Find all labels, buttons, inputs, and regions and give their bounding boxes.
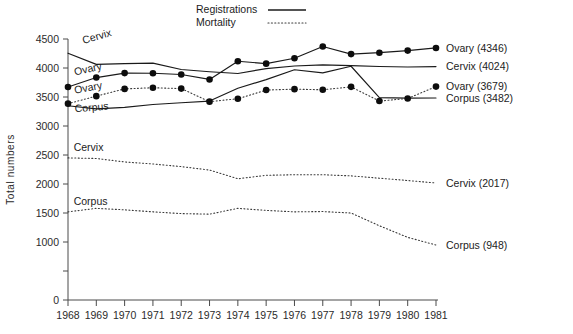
y-axis-title-text: Total numbers (5, 134, 16, 205)
x-tick-label: 1971 (141, 309, 165, 321)
series-end-label: Cervix (2017) (446, 177, 509, 189)
inline-series-label: Corpus (74, 99, 109, 114)
chart-legend: RegistrationsMortality (196, 3, 306, 28)
data-point-marker (65, 100, 72, 107)
inline-series-label: Ovary (73, 59, 104, 77)
data-point-marker (121, 86, 128, 93)
data-point-marker (376, 49, 383, 56)
data-point-marker (291, 86, 298, 93)
data-point-marker (404, 47, 411, 54)
data-point-marker (291, 55, 298, 62)
inline-series-label: Cervix (74, 141, 105, 153)
data-point-marker (319, 86, 326, 93)
inline-series-labels: CervixOvaryOvaryCorpusCervixCorpus (73, 26, 114, 207)
x-tick-label: 1977 (311, 309, 335, 321)
series-end-label: Cervix (4024) (446, 60, 509, 72)
series-line (68, 158, 436, 183)
x-tick-label: 1972 (170, 309, 194, 321)
chart-axes (68, 39, 438, 300)
data-point-marker (235, 95, 242, 102)
y-axis-title: Total numbers (5, 134, 16, 205)
y-tick-label: 1500 (36, 207, 60, 219)
data-point-marker (348, 51, 355, 58)
data-point-marker (263, 60, 270, 67)
end-series-labels: Ovary (4346)Cervix (4024)Corpus (3482)Ov… (446, 42, 513, 251)
data-point-marker (150, 84, 157, 91)
x-tick-label: 1973 (198, 309, 222, 321)
y-tick-label: 0 (53, 294, 59, 306)
data-point-marker (376, 98, 383, 105)
data-point-marker (206, 98, 213, 105)
y-tick-label: 1000 (36, 236, 60, 248)
data-point-marker (433, 45, 440, 52)
y-tick-label: 2000 (36, 178, 60, 190)
inline-series-label: Corpus (74, 195, 108, 207)
x-tick-label: 1981 (424, 309, 448, 321)
x-tick-label: 1980 (396, 309, 420, 321)
x-tick-label: 1975 (254, 309, 278, 321)
line-chart: RegistrationsMortality 01000150020002500… (0, 0, 573, 334)
series-end-label: Corpus (948) (446, 239, 507, 251)
inline-series-label: Cervix (81, 26, 114, 46)
x-tick-label: 1969 (85, 309, 109, 321)
y-tick-label: 3500 (36, 91, 60, 103)
series-end-label: Corpus (3482) (446, 92, 513, 104)
series-end-label: Ovary (3679) (446, 80, 507, 92)
x-tick-label: 1979 (368, 309, 392, 321)
inline-series-label: Ovary (73, 79, 104, 96)
axis-lines (68, 39, 438, 300)
series-end-label: Ovary (4346) (446, 42, 507, 54)
series-line (68, 208, 436, 245)
data-point-marker (433, 83, 440, 90)
y-tick-label: 4500 (36, 33, 60, 45)
legend-label: Mortality (196, 16, 236, 28)
data-point-marker (178, 85, 185, 92)
data-point-marker (178, 71, 185, 78)
data-point-marker (150, 70, 157, 77)
x-tick-label: 1968 (56, 309, 80, 321)
data-point-marker (206, 76, 213, 83)
data-point-marker (65, 84, 72, 91)
x-tick-label: 1970 (113, 309, 137, 321)
y-tick-label: 4000 (36, 62, 60, 74)
x-tick-label: 1974 (226, 309, 250, 321)
data-point-marker (263, 87, 270, 94)
data-series-group (68, 46, 436, 245)
x-tick-label: 1978 (339, 309, 363, 321)
data-point-marker (121, 70, 128, 77)
data-point-marker (235, 58, 242, 65)
y-tick-label: 2500 (36, 149, 60, 161)
y-tick-label: 3000 (36, 120, 60, 132)
x-tick-label: 1976 (283, 309, 307, 321)
data-point-marker (348, 84, 355, 91)
y-axis-ticks: 010001500200025003000350040004500 (36, 33, 68, 306)
data-point-marker (319, 43, 326, 50)
legend-label: Registrations (196, 3, 257, 15)
data-point-marker (404, 95, 411, 102)
data-point-marker (93, 93, 100, 100)
chart-container: RegistrationsMortality 01000150020002500… (0, 0, 573, 334)
x-axis-ticks: 1968196919701971197219731974197519761977… (56, 300, 448, 321)
